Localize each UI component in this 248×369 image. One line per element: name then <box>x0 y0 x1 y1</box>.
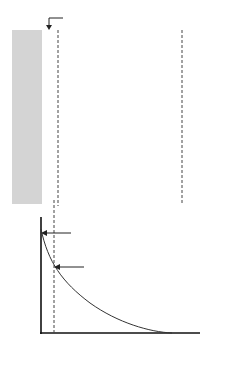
stern-arrow-line <box>49 18 63 26</box>
double-layer-diagram <box>0 0 248 369</box>
stern-arrow-head <box>46 25 52 30</box>
soil-particle-block <box>12 30 42 204</box>
potential-curve <box>41 229 172 333</box>
